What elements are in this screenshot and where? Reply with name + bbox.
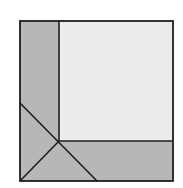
diagram-canvas [0, 0, 183, 188]
square-dissection-diagram [0, 0, 183, 188]
inner-square [59, 21, 173, 141]
